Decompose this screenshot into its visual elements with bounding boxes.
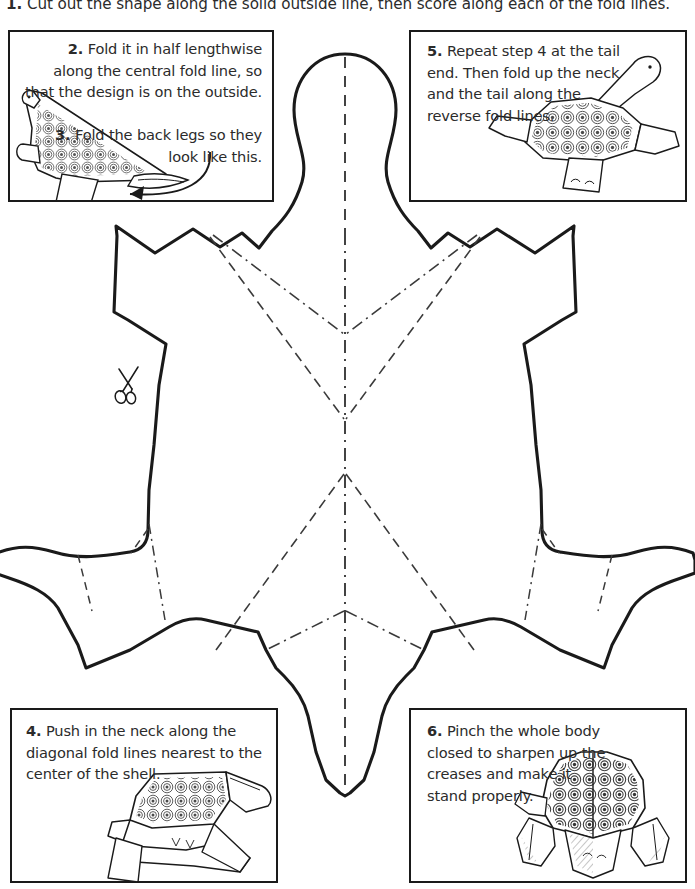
cut-outline-group	[0, 54, 695, 796]
cut-outline-path	[0, 54, 695, 796]
scissors-icon	[112, 365, 146, 407]
turtle-cutout-template	[0, 0, 695, 889]
instruction-sheet-page: 1. Cut out the shape along the solid out…	[0, 0, 695, 889]
